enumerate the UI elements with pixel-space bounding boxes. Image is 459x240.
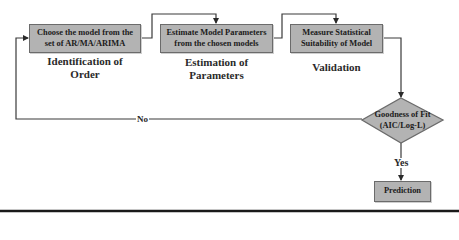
step-validate-line-1: Measure Statistical (301, 28, 372, 39)
caption-line: Identification of (29, 55, 141, 68)
step-estimate-line-2: from the chosen models (167, 39, 267, 50)
decision-label: Goodness of Fit (AIC/Log-L) (362, 110, 443, 131)
step-validate-box: Measure Statistical Suitability of Model (290, 24, 383, 53)
step-identify-box: Choose the model from the set of AR/MA/A… (29, 24, 141, 53)
step-validate-line-2: Suitability of Model (301, 39, 372, 50)
step-estimate-caption: Estimation of Parameters (160, 56, 273, 81)
step-validate-caption: Validation (290, 61, 383, 74)
step-estimate-line-1: Estimate Model Parameters (167, 28, 267, 39)
prediction-box: Prediction (374, 181, 431, 202)
decision-line-2: (AIC/Log-L) (362, 121, 443, 132)
step-identify-caption: Identification of Order (29, 55, 141, 80)
step-identify-line-1: Choose the model from the (37, 28, 133, 39)
prediction-label: Prediction (384, 186, 421, 197)
edge-label-yes: Yes (393, 158, 409, 168)
caption-line: Order (29, 68, 141, 81)
caption-line: Estimation of (160, 56, 273, 69)
decision-line-1: Goodness of Fit (362, 110, 443, 121)
step-estimate-box: Estimate Model Parameters from the chose… (160, 24, 273, 53)
caption-line: Validation (290, 61, 383, 74)
edge-label-no: No (136, 114, 149, 124)
step-identify-line-2: set of AR/MA/ARIMA (37, 39, 133, 50)
caption-line: Parameters (160, 69, 273, 82)
